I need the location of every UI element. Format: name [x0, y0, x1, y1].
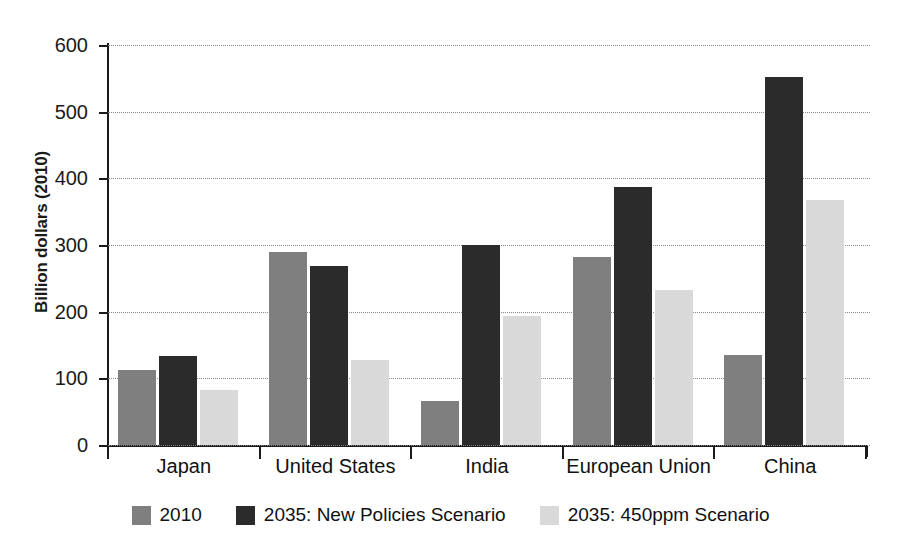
- bar-group: [260, 45, 412, 445]
- legend-swatch-450ppm: [540, 506, 559, 525]
- bar: [724, 355, 762, 445]
- y-axis-tick-label: 200: [16, 302, 88, 322]
- y-axis-tick-label: 100: [16, 368, 88, 388]
- bar-group: [411, 45, 563, 445]
- legend-swatch-2010: [132, 506, 151, 525]
- x-axis-category-label: China: [714, 455, 866, 477]
- gridline: [108, 445, 870, 446]
- bar: [351, 360, 389, 445]
- y-axis-tick-mark: [99, 112, 108, 114]
- y-axis-tick-label: 600: [16, 35, 88, 55]
- x-axis-category-label: European Union: [563, 455, 715, 477]
- bar: [655, 290, 693, 445]
- bar-group: [714, 45, 866, 445]
- x-axis-category-label: India: [411, 455, 563, 477]
- legend-item[interactable]: 2010: [132, 505, 202, 525]
- bar: [462, 245, 500, 445]
- bar: [200, 390, 238, 445]
- bar: [118, 370, 156, 445]
- bar: [159, 356, 197, 445]
- bar: [573, 257, 611, 445]
- y-axis-tick-mark: [99, 312, 108, 314]
- y-axis-tick-label: 400: [16, 168, 88, 188]
- bar: [421, 401, 459, 445]
- bar: [614, 187, 652, 445]
- bar-group: [563, 45, 715, 445]
- plot-area: 0100200300400500600: [108, 45, 866, 445]
- y-axis-tick-mark: [99, 245, 108, 247]
- y-axis-tick-mark: [99, 178, 108, 180]
- y-axis-tick-label: 300: [16, 235, 88, 255]
- legend-item[interactable]: 2035: 450ppm Scenario: [540, 505, 770, 525]
- bar: [806, 200, 844, 445]
- bar: [503, 316, 541, 445]
- legend-swatch-new-policies: [236, 506, 255, 525]
- y-axis-tick-label: 500: [16, 102, 88, 122]
- legend-item[interactable]: 2035: New Policies Scenario: [236, 505, 506, 525]
- chart-legend: 20102035: New Policies Scenario2035: 450…: [0, 505, 901, 525]
- bar-group: [108, 45, 260, 445]
- legend-item-label: 2035: 450ppm Scenario: [568, 505, 770, 525]
- bar: [765, 77, 803, 445]
- bar: [269, 252, 307, 445]
- y-axis-tick-mark: [99, 378, 108, 380]
- bar: [310, 266, 348, 445]
- legend-item-label: 2010: [160, 505, 202, 525]
- bar-chart: Billion dollars (2010) 01002003004005006…: [0, 0, 901, 558]
- x-axis-category-label: United States: [260, 455, 412, 477]
- legend-item-label: 2035: New Policies Scenario: [264, 505, 506, 525]
- x-axis-category-label: Japan: [108, 455, 260, 477]
- y-axis-title: Billion dollars (2010): [32, 102, 52, 362]
- y-axis-tick-label: 0: [16, 435, 88, 455]
- y-axis-tick-mark: [99, 45, 108, 47]
